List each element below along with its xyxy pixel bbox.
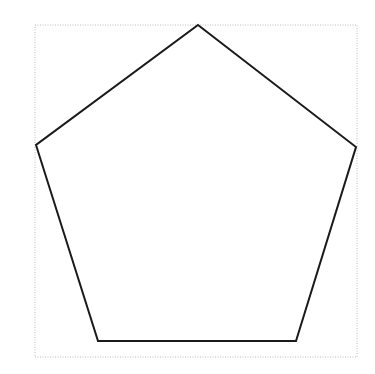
pentagon-shape[interactable]: [36, 25, 356, 341]
diagram-canvas: [0, 0, 375, 374]
